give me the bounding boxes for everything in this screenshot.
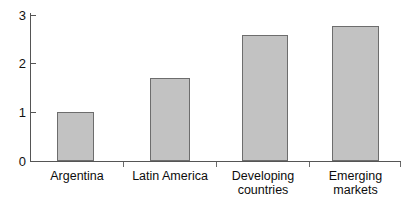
x-axis-label-argentina: Argentina (31, 169, 123, 183)
x-axis-separator-tick-1 (123, 162, 124, 167)
x-axis-separator-tick-3 (309, 162, 310, 167)
y-tick-mark-3 (31, 15, 36, 16)
bar-argentina (57, 112, 94, 161)
bar-developing-countries (242, 35, 288, 161)
x-axis-label-emerging-markets: Emerging markets (310, 169, 401, 197)
y-tick-mark-1 (31, 112, 36, 113)
y-tick-label-1: 1 (0, 106, 26, 119)
y-tick-label-3: 3 (0, 9, 26, 22)
y-tick-label-1-wrap: 1 (0, 106, 26, 119)
x-axis-separator-tick-2 (216, 162, 217, 167)
y-tick-label-2-wrap: 2 (0, 57, 26, 70)
y-tick-label-3-wrap: 3 (0, 9, 26, 22)
x-axis-label-latin-america: Latin America (124, 169, 216, 183)
x-axis-label-developing-countries: Developing countries (217, 169, 309, 197)
bar-latin-america (150, 78, 190, 161)
y-tick-label-2: 2 (0, 57, 26, 70)
y-tick-label-0: 0 (0, 155, 26, 168)
y-tick-mark-2 (31, 63, 36, 64)
x-axis-end-tick (400, 162, 401, 167)
bar-emerging-markets (332, 26, 379, 161)
y-axis-line (30, 13, 31, 162)
bar-chart-figure: 3 2 1 0 Argentina Latin America Developi… (0, 0, 414, 209)
y-tick-label-0-wrap: 0 (0, 155, 26, 168)
